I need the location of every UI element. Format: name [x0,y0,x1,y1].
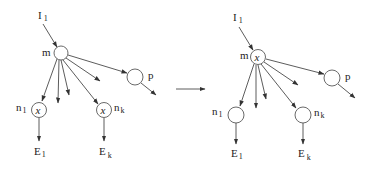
edge-m-to-p-left [68,55,127,73]
edge-p-out-left [141,83,156,95]
input-label-right: I1 [233,11,243,25]
node-nk-label-right: nk [314,106,325,120]
node-nk-label-left: nk [114,101,125,115]
node-p-label-right: p [345,70,351,82]
node-p-left [127,69,143,85]
edge-m-out-1-left [58,60,59,103]
node-nk-right [295,107,311,123]
edge-input-to-m-right [239,27,253,50]
right-graph: I1 x m p n1 E1 nk Ek [212,11,355,162]
edge-p-out-right [338,84,355,98]
node-n1-right [228,107,244,123]
node-m-label-left: m [42,46,51,58]
node-n1-label-right: n1 [212,105,223,119]
edge-m-out-2-right [258,65,266,99]
input-label-left: I1 [38,9,48,23]
output-ek-right: Ek [298,147,311,162]
output-e1-left: E1 [34,145,46,159]
x-marker-n1-left: x [35,104,41,116]
node-p-right [324,70,340,86]
output-ek-left: Ek [99,145,112,160]
edge-m-to-n1-left [42,59,57,101]
edge-m-to-n1-right [240,64,254,106]
left-graph: I1 m p x n1 E1 x nk [16,9,156,160]
edge-m-to-nk-left [63,60,98,104]
x-marker-m-right: x [254,51,260,63]
edge-m-to-nk-right [261,64,296,108]
edge-input-to-m-left [43,24,57,47]
edge-m-to-p-right [266,59,324,74]
diagram-canvas: I1 m p x n1 E1 x nk [0,0,371,171]
node-m-label-right: m [240,49,249,61]
node-n1-label-left: n1 [16,101,27,115]
x-marker-nk-left: x [100,104,106,116]
edge-m-out-2-left [61,60,69,95]
output-e1-right: E1 [231,147,243,161]
node-p-label-left: p [148,69,154,81]
node-m-left [54,46,68,60]
